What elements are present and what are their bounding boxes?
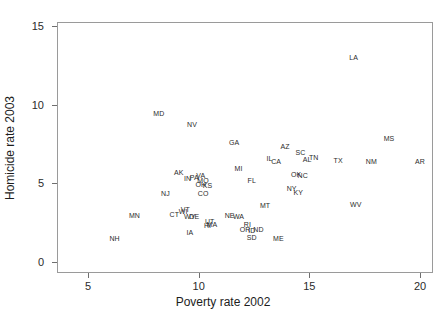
data-point-label: WA xyxy=(233,213,244,220)
data-point-label: AL xyxy=(303,155,312,162)
x-axis-title: Poverty rate 2002 xyxy=(176,295,271,309)
data-point-label: MD xyxy=(153,109,164,116)
y-axis-tick-label: 15 xyxy=(0,20,44,32)
data-point-label: HI xyxy=(204,222,211,229)
data-point-label: GA xyxy=(229,139,239,146)
data-point-label: ME xyxy=(273,235,284,242)
x-axis-tick-label: 15 xyxy=(303,280,315,292)
data-point-label: VT xyxy=(181,206,190,213)
data-point-label: MI xyxy=(235,164,243,171)
y-axis-tick xyxy=(52,183,57,184)
x-axis-tick xyxy=(420,273,421,278)
data-point-label: AZ xyxy=(280,142,289,149)
y-axis-tick-label: 0 xyxy=(0,256,44,268)
data-point-label: IN xyxy=(184,174,191,181)
y-axis-tick xyxy=(52,26,57,27)
data-point-label: CO xyxy=(198,189,209,196)
data-point-label: MS xyxy=(384,134,395,141)
data-point-label: SC xyxy=(296,148,306,155)
data-point-label: KY xyxy=(293,188,303,195)
data-point-label: MN xyxy=(129,211,140,218)
data-point-label: NV xyxy=(187,120,197,127)
y-axis-tick xyxy=(52,105,57,106)
x-axis-tick-label: 5 xyxy=(85,280,91,292)
data-point-label: NJ xyxy=(161,189,170,196)
x-axis-tick xyxy=(88,273,89,278)
data-point-label: LA xyxy=(349,54,358,61)
scatter-plot-figure: LAMDNVMSGAAZSCTNALILCATXNMARMIAKVAPAINMO… xyxy=(0,0,446,318)
data-point-label: MT xyxy=(260,202,270,209)
data-point-label: TX xyxy=(334,156,343,163)
x-axis-tick xyxy=(199,273,200,278)
data-point-label: NH xyxy=(109,235,119,242)
y-axis-title: Homicide rate 2003 xyxy=(3,96,17,200)
data-point-label: SD xyxy=(247,233,257,240)
data-point-label: KS xyxy=(203,181,213,188)
data-point-label: NM xyxy=(366,158,377,165)
data-point-label: CA xyxy=(271,158,281,165)
data-point-label: AR xyxy=(415,158,425,165)
y-axis-tick xyxy=(52,262,57,263)
x-axis-tick-label: 10 xyxy=(193,280,205,292)
data-point-label: DE xyxy=(189,213,199,220)
x-axis-tick-label: 20 xyxy=(414,280,426,292)
data-points-layer: LAMDNVMSGAAZSCTNALILCATXNMARMIAKVAPAINMO… xyxy=(0,0,446,318)
x-axis-tick xyxy=(309,273,310,278)
data-point-label: FL xyxy=(248,177,256,184)
data-point-label: CT xyxy=(170,211,180,218)
data-point-label: AK xyxy=(174,169,184,176)
data-point-label: NC xyxy=(298,172,308,179)
data-point-label: IA xyxy=(186,229,193,236)
data-point-label: ND xyxy=(253,225,263,232)
data-point-label: WV xyxy=(350,200,361,207)
